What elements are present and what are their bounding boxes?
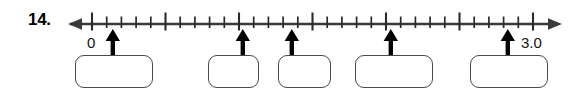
answer-box-2[interactable]	[208, 55, 259, 88]
answer-box-1-value[interactable]	[76, 56, 152, 87]
answer-box-5[interactable]	[470, 55, 548, 88]
answer-box-5-value[interactable]	[471, 56, 547, 87]
axis-label-start: 0	[87, 35, 95, 50]
answer-box-1[interactable]	[75, 55, 153, 88]
answer-box-4-value[interactable]	[356, 56, 432, 87]
answer-box-4[interactable]	[355, 55, 433, 88]
answer-box-3-value[interactable]	[279, 56, 330, 87]
axis-label-end: 3.0	[521, 35, 542, 50]
major-tick-group	[92, 13, 533, 31]
right-arrowhead-icon	[548, 18, 562, 30]
answer-box-3[interactable]	[278, 55, 331, 88]
worksheet-problem-14: 14.	[0, 0, 572, 99]
left-arrowhead-icon	[68, 18, 82, 30]
answer-box-2-value[interactable]	[209, 56, 258, 87]
